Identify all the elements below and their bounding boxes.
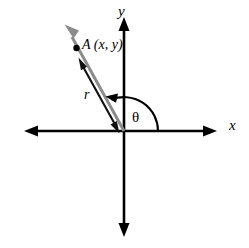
point-label: A (x, y) xyxy=(82,38,123,52)
angle-label: θ xyxy=(132,110,139,125)
y-axis-label: y xyxy=(118,4,125,19)
polar-coordinate-diagram: y x r θ A (x, y) xyxy=(0,0,249,248)
x-axis-right-arrowhead xyxy=(203,126,217,137)
x-axis-left-arrowhead xyxy=(24,126,38,137)
diagram-canvas xyxy=(0,0,249,248)
y-axis-top-arrowhead xyxy=(119,17,130,31)
terminal-ray-arrowhead xyxy=(65,25,80,39)
x-axis-label: x xyxy=(229,118,236,133)
y-axis-bottom-arrowhead xyxy=(119,223,130,237)
radius-label: r xyxy=(84,88,89,102)
point-marker-a xyxy=(73,45,79,51)
